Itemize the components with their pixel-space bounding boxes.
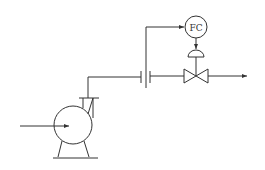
flow-controller: FC bbox=[185, 16, 207, 38]
centrifugal-pump bbox=[53, 98, 99, 158]
valve-actuator bbox=[188, 50, 204, 76]
controller-label: FC bbox=[189, 23, 202, 33]
pid-diagram: FC bbox=[0, 0, 265, 170]
orifice-plate bbox=[141, 27, 150, 88]
discharge-pipe bbox=[88, 77, 141, 98]
